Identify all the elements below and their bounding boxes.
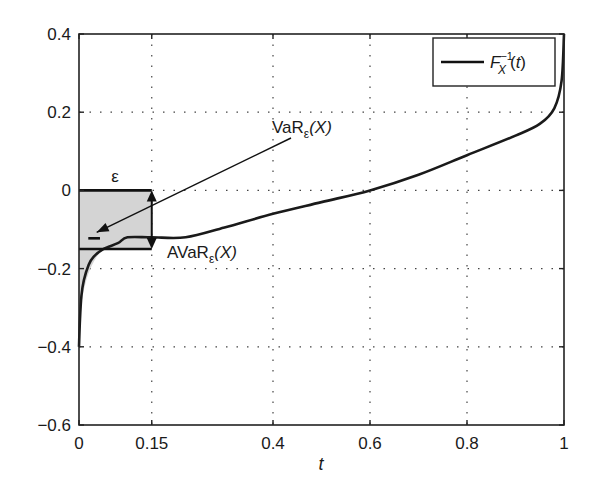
var-label-main: VaR xyxy=(272,118,304,137)
var-label-tail: (X) xyxy=(309,118,332,137)
y-tick-label: −0.4 xyxy=(37,338,71,357)
epsilon-label: ε xyxy=(111,167,119,186)
y-tick-label: −0.2 xyxy=(37,260,71,279)
x-tick-label: 0.8 xyxy=(455,434,479,453)
x-tick-label: 0.15 xyxy=(135,434,168,453)
legend-label-tail: (t) xyxy=(510,53,526,72)
y-tick-label: 0.4 xyxy=(47,25,71,44)
x-tick-label: 0.4 xyxy=(261,434,285,453)
legend: F−1X(t) xyxy=(433,38,555,86)
y-tick-label: 0 xyxy=(62,181,71,200)
y-tick-label: −0.6 xyxy=(37,416,71,435)
x-tick-labels: 00.150.40.60.81 xyxy=(74,434,568,453)
avar-label-tail: (X) xyxy=(214,243,237,262)
x-axis-label: t xyxy=(318,454,324,474)
y-tick-labels: −0.6−0.4−0.200.20.4 xyxy=(37,25,71,435)
quantile-chart: 00.150.40.60.81 −0.6−0.4−0.200.20.4 t ε … xyxy=(0,0,596,497)
legend-label-sub: X xyxy=(497,63,507,77)
epsilon-shaded-rect xyxy=(79,190,152,249)
x-tick-label: 0 xyxy=(74,434,83,453)
y-tick-label: 0.2 xyxy=(47,103,71,122)
avar-label-main: AVaR xyxy=(167,243,209,262)
x-tick-label: 1 xyxy=(559,434,568,453)
x-tick-label: 0.6 xyxy=(358,434,382,453)
